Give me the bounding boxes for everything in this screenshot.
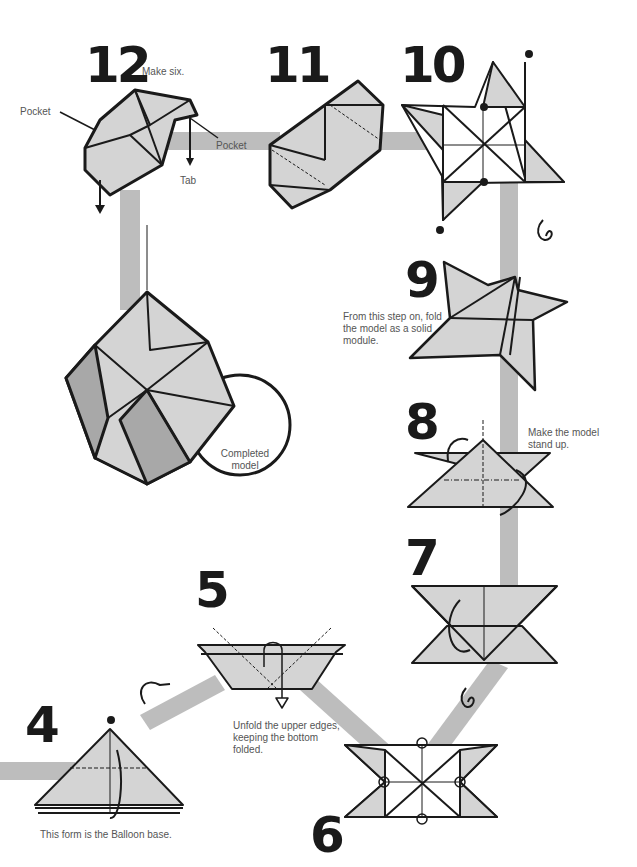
step-number-6: 6 — [310, 810, 342, 860]
step-8-note: Make the model stand up. — [528, 427, 613, 451]
step-number-12: 12 — [85, 40, 149, 90]
make-six-note: Make six. — [142, 66, 184, 77]
step-number-8: 8 — [405, 397, 437, 447]
step-4-note: This form is the Balloon base. — [40, 829, 172, 840]
step-5-note: Unfold the upper edges, keeping the bott… — [233, 720, 343, 756]
step-11-figure — [270, 81, 383, 208]
turn-over-icon-10-9 — [538, 220, 552, 240]
completed-model-label: Completed model — [215, 448, 275, 472]
tab-label: Tab — [180, 175, 196, 186]
pocket-label-right: Pocket — [216, 140, 247, 151]
step-number-9: 9 — [405, 255, 437, 305]
step-number-5: 5 — [195, 565, 227, 615]
pocket-label-left: Pocket — [20, 106, 51, 117]
path-segment-10-down — [500, 180, 518, 610]
turn-over-icon-5-4 — [141, 683, 170, 704]
step-number-7: 7 — [405, 533, 437, 583]
step-7-figure — [412, 586, 557, 663]
step-6-figure — [345, 738, 497, 824]
completed-model-figure — [66, 225, 290, 484]
path-segment-12-down — [120, 190, 140, 310]
step-9-note: From this step on, fold the model as a s… — [343, 311, 453, 347]
step-number-4: 4 — [25, 700, 57, 750]
step-number-11: 11 — [265, 40, 329, 90]
step-number-10: 10 — [400, 40, 464, 90]
